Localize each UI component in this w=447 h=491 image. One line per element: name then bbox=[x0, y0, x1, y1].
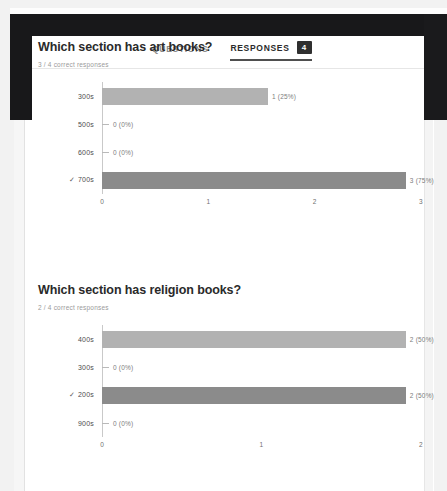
bar-value-label: 1 (25%) bbox=[272, 93, 296, 100]
category-label: 400s bbox=[78, 336, 94, 343]
bar-row: ✓200s 2 (50%) bbox=[102, 381, 434, 409]
zero-tick-stub bbox=[102, 367, 109, 368]
x-tick-label: 1 bbox=[260, 441, 264, 448]
question-block-2: Which section has religion books? 2 / 4 … bbox=[24, 283, 434, 451]
bar-value-label: 0 (0%) bbox=[113, 364, 133, 371]
x-axis: 0 1 2 bbox=[102, 437, 434, 451]
bar-value-label: 0 (0%) bbox=[113, 420, 133, 427]
zero-tick-stub bbox=[102, 423, 109, 424]
x-tick-label: 1 bbox=[206, 198, 210, 205]
category-label: 500s bbox=[78, 121, 94, 128]
bar-value-label: 0 (0%) bbox=[113, 121, 133, 128]
question-correct-summary: 2 / 4 correct responses bbox=[38, 304, 434, 311]
bar-row: 500s 0 (0%) bbox=[102, 110, 434, 138]
zero-tick-stub bbox=[102, 124, 109, 125]
bar-segment-correct bbox=[102, 387, 406, 404]
category-label: 300s bbox=[78, 93, 94, 100]
bar-segment bbox=[102, 88, 268, 105]
x-tick-label: 2 bbox=[419, 441, 423, 448]
response-bar-chart-1: 300s 1 (25%) 500s 0 (0%) 600s 0 (0%) ✓70… bbox=[24, 82, 434, 208]
bar-segment bbox=[102, 331, 406, 348]
bar-value-label: 3 (75%) bbox=[410, 177, 434, 184]
category-label: ✓200s bbox=[69, 391, 94, 399]
bar-value-label: 2 (50%) bbox=[410, 392, 434, 399]
x-tick-label: 0 bbox=[100, 198, 104, 205]
bar-rows: 400s 2 (50%) 300s 0 (0%) ✓200s 2 (50%) 9… bbox=[102, 325, 434, 437]
response-bar-chart-2: 400s 2 (50%) 300s 0 (0%) ✓200s 2 (50%) 9… bbox=[24, 325, 434, 451]
bar-segment-correct bbox=[102, 172, 406, 189]
x-tick-label: 2 bbox=[313, 198, 317, 205]
category-label: ✓700s bbox=[69, 176, 94, 184]
correct-answer-check-icon: ✓ bbox=[69, 176, 75, 183]
bar-row: 900s 0 (0%) bbox=[102, 409, 434, 437]
bar-rows: 300s 1 (25%) 500s 0 (0%) 600s 0 (0%) ✓70… bbox=[102, 82, 434, 194]
bezel-top-bar bbox=[10, 14, 447, 36]
zero-tick-stub bbox=[102, 152, 109, 153]
x-axis: 0 1 2 3 bbox=[102, 194, 434, 208]
question-block-1: Which section has art books? 3 / 4 corre… bbox=[24, 40, 434, 208]
bar-value-label: 2 (50%) bbox=[410, 336, 434, 343]
question-title: Which section has religion books? bbox=[38, 283, 434, 297]
category-label: 600s bbox=[78, 149, 94, 156]
question-title: Which section has art books? bbox=[38, 40, 434, 54]
bar-row: 300s 0 (0%) bbox=[102, 353, 434, 381]
bar-value-label: 0 (0%) bbox=[113, 149, 133, 156]
bar-row: ✓700s 3 (75%) bbox=[102, 166, 434, 194]
bar-row: 600s 0 (0%) bbox=[102, 138, 434, 166]
chart-plot-area: 400s 2 (50%) 300s 0 (0%) ✓200s 2 (50%) 9… bbox=[102, 325, 434, 437]
question-correct-summary: 3 / 4 correct responses bbox=[38, 61, 434, 68]
category-label: 900s bbox=[78, 420, 94, 427]
bar-row: 300s 1 (25%) bbox=[102, 82, 434, 110]
x-tick-label: 0 bbox=[100, 441, 104, 448]
correct-answer-check-icon: ✓ bbox=[69, 391, 75, 398]
x-tick-label: 3 bbox=[419, 198, 423, 205]
bar-row: 400s 2 (50%) bbox=[102, 325, 434, 353]
chart-plot-area: 300s 1 (25%) 500s 0 (0%) 600s 0 (0%) ✓70… bbox=[102, 82, 434, 194]
category-label: 300s bbox=[78, 364, 94, 371]
